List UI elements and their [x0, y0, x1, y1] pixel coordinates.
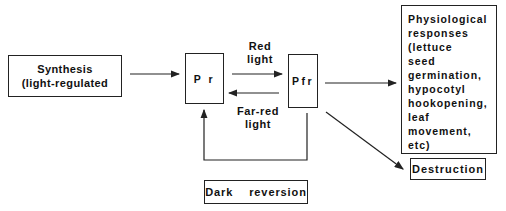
- phys-line: responses: [408, 26, 488, 40]
- phys-line: seed: [408, 54, 488, 68]
- phys-line: hypocotyl: [408, 82, 488, 96]
- physiological-responses-box: Physiological responses (lettuce seed ge…: [401, 5, 497, 154]
- phys-line: movement,: [408, 124, 488, 138]
- phys-line: (lettuce: [408, 40, 488, 54]
- synthesis-sublabel: (light-regulated: [9, 76, 121, 90]
- phys-line: Physiological: [408, 12, 488, 26]
- synthesis-box: Synthesis (light-regulated: [8, 55, 122, 97]
- far-red-light-line1: Far-red: [229, 105, 287, 118]
- dark-reversion-box: Dark reversion: [204, 180, 308, 204]
- dark-reversion-label: Dark reversion: [205, 186, 307, 198]
- red-light-label: Red light: [242, 40, 278, 66]
- destruction-label: Destruction: [411, 163, 485, 175]
- far-red-light-line2: light: [229, 118, 287, 131]
- pr-label: P r: [186, 73, 223, 85]
- phys-line: etc): [408, 138, 488, 152]
- synthesis-label: Synthesis: [9, 62, 121, 76]
- phys-line: leaf: [408, 110, 488, 124]
- phys-line: germination,: [408, 68, 488, 82]
- far-red-light-label: Far-red light: [229, 105, 287, 131]
- pfr-box: Pfr: [288, 54, 318, 108]
- phys-line: hookopening,: [408, 96, 488, 110]
- pr-box: P r: [185, 53, 224, 104]
- red-light-line1: Red: [242, 40, 278, 53]
- destruction-box: Destruction: [410, 158, 486, 180]
- pfr-label: Pfr: [289, 75, 317, 87]
- red-light-line2: light: [242, 53, 278, 66]
